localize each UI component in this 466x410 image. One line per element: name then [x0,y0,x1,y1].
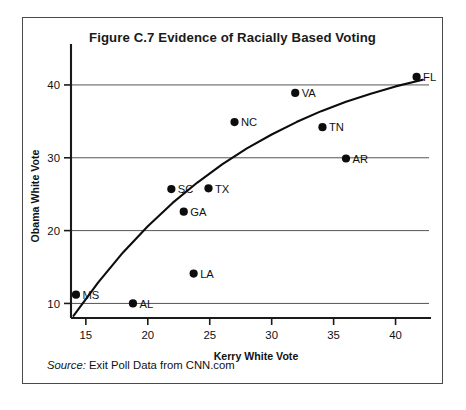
y-tick-label: 40 [47,79,60,91]
data-point-al[interactable] [129,299,137,307]
y-axis-title: Obama White Vote [29,149,41,242]
data-point-label-ga: GA [190,206,207,218]
scatter-plot: 10203040152025303540MSALSCGALATXNCVATNAR… [23,18,444,385]
data-point-nc[interactable] [230,118,238,126]
data-point-ga[interactable] [180,208,188,216]
data-point-fl[interactable] [413,73,421,81]
y-tick-label: 20 [47,225,60,237]
data-point-ms[interactable] [72,291,80,299]
source-note: Source: Exit Poll Data from CNN.com [47,359,235,371]
data-point-label-sc: SC [178,183,194,195]
data-point-label-ms: MS [82,289,99,301]
x-tick-label: 25 [203,329,216,341]
data-point-va[interactable] [291,89,299,97]
data-point-label-la: LA [200,268,214,280]
data-point-label-ar: AR [353,153,369,165]
data-point-label-nc: NC [241,116,257,128]
figure-frame: Figure C.7 Evidence of Racially Based Vo… [22,17,443,384]
source-label: Source: [47,359,86,371]
trend-curve [73,80,422,316]
x-tick-label: 30 [265,329,278,341]
source-text: Exit Poll Data from CNN.com [86,359,235,371]
data-point-label-fl: FL [423,71,436,83]
data-point-tx[interactable] [204,184,212,192]
data-point-label-al: AL [139,298,153,310]
data-point-label-tx: TX [215,183,230,195]
data-point-ar[interactable] [342,154,350,162]
data-point-tn[interactable] [318,123,326,131]
data-point-label-va: VA [302,87,317,99]
x-tick-label: 40 [389,329,402,341]
x-tick-label: 35 [327,329,340,341]
x-tick-label: 20 [141,329,154,341]
y-tick-label: 10 [47,298,60,310]
y-tick-label: 30 [47,152,60,164]
data-point-sc[interactable] [167,185,175,193]
x-tick-label: 15 [80,329,93,341]
data-point-la[interactable] [190,269,198,277]
data-point-label-tn: TN [329,121,344,133]
